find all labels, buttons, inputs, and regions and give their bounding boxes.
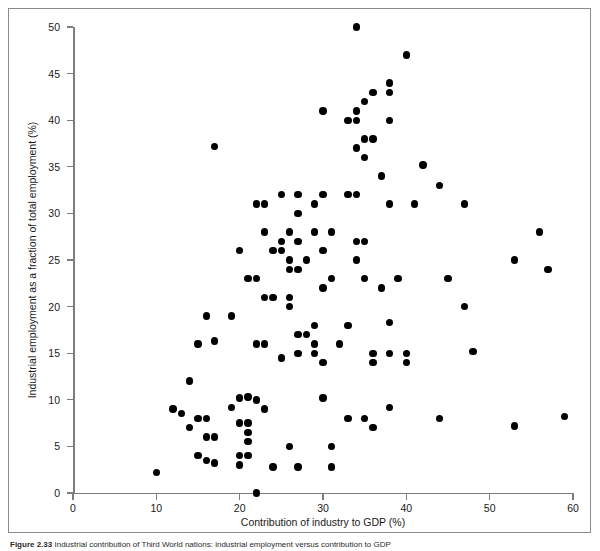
- y-axis-title: Industrial employment as a fraction of t…: [24, 27, 40, 493]
- scatter-point: [203, 312, 210, 319]
- scatter-point: [319, 359, 326, 366]
- x-axis-tick-label: 50: [475, 503, 505, 514]
- scatter-point: [294, 210, 301, 217]
- scatter-point: [236, 394, 243, 401]
- scatter-point: [369, 424, 376, 431]
- scatter-point: [186, 377, 193, 384]
- scatter-point: [311, 200, 318, 207]
- scatter-point: [228, 312, 235, 319]
- scatter-point: [269, 294, 276, 301]
- scatter-point: [244, 452, 251, 459]
- scatter-point: [203, 457, 210, 464]
- x-axis-tick: [489, 494, 490, 500]
- scatter-point: [436, 415, 443, 422]
- scatter-point: [353, 144, 360, 151]
- scatter-point: [328, 228, 335, 235]
- scatter-point: [294, 238, 301, 245]
- x-axis-tick-label: 60: [558, 503, 588, 514]
- x-axis-tick: [156, 494, 157, 500]
- scatter-point: [378, 172, 385, 179]
- scatter-point: [278, 191, 285, 198]
- scatter-point: [403, 51, 410, 58]
- scatter-point: [244, 393, 251, 400]
- scatter-point: [153, 469, 160, 476]
- scatter-point: [278, 354, 285, 361]
- scatter-point: [336, 340, 343, 347]
- scatter-point: [186, 424, 193, 431]
- scatter-point: [319, 247, 326, 254]
- scatter-point: [353, 238, 360, 245]
- scatter-point: [278, 247, 285, 254]
- scatter-point: [386, 404, 393, 411]
- scatter-point: [369, 350, 376, 357]
- scatter-point: [278, 238, 285, 245]
- x-axis-tick-label: 0: [58, 503, 88, 514]
- x-axis-tick: [572, 494, 573, 500]
- scatter-point: [194, 415, 201, 422]
- scatter-point: [203, 415, 210, 422]
- scatter-point: [319, 284, 326, 291]
- x-axis-tick-label: 40: [391, 503, 421, 514]
- scatter-point: [294, 350, 301, 357]
- scatter-point: [344, 117, 351, 124]
- x-axis-tick-label: 30: [308, 503, 338, 514]
- x-axis-tick-label: 20: [225, 503, 255, 514]
- scatter-point: [469, 348, 476, 355]
- scatter-point: [511, 422, 518, 429]
- scatter-point: [353, 191, 360, 198]
- scatter-point: [344, 415, 351, 422]
- scatter-point: [311, 228, 318, 235]
- x-axis-tick: [72, 494, 73, 500]
- scatter-point: [269, 463, 276, 470]
- scatter-point: [361, 98, 368, 105]
- scatter-point: [386, 319, 393, 326]
- scatter-point: [303, 256, 310, 263]
- scatter-point: [328, 463, 335, 470]
- figure-root: 05101520253035404550 0102030405060 Indus…: [0, 0, 600, 551]
- scatter-point: [203, 433, 210, 440]
- scatter-point: [436, 182, 443, 189]
- scatter-point: [419, 161, 426, 168]
- scatter-point: [253, 396, 260, 403]
- scatter-point: [228, 404, 235, 411]
- scatter-point: [386, 200, 393, 207]
- scatter-point: [353, 23, 360, 30]
- scatter-point: [369, 359, 376, 366]
- scatter-point: [286, 294, 293, 301]
- scatter-point: [244, 275, 251, 282]
- scatter-point: [253, 340, 260, 347]
- scatter-point: [319, 107, 326, 114]
- scatter-point: [303, 331, 310, 338]
- figure-caption: Figure 2.33 Industrial contribution of T…: [10, 540, 590, 550]
- scatter-point: [286, 443, 293, 450]
- scatter-point: [369, 135, 376, 142]
- scatter-point: [211, 433, 218, 440]
- scatter-point: [444, 275, 451, 282]
- scatter-point: [311, 340, 318, 347]
- scatter-point: [378, 284, 385, 291]
- scatter-point: [403, 350, 410, 357]
- scatter-point: [511, 256, 518, 263]
- scatter-point: [236, 247, 243, 254]
- scatter-point: [311, 350, 318, 357]
- scatter-point: [253, 275, 260, 282]
- scatter-point: [194, 340, 201, 347]
- scatter-point: [461, 303, 468, 310]
- scatter-point: [211, 143, 218, 150]
- scatter-point: [286, 303, 293, 310]
- scatter-point: [536, 228, 543, 235]
- scatter-point: [386, 350, 393, 357]
- scatter-point: [261, 228, 268, 235]
- scatter-point: [386, 89, 393, 96]
- scatter-point: [561, 413, 568, 420]
- scatter-point: [211, 459, 218, 466]
- scatter-point: [169, 405, 176, 412]
- scatter-point: [386, 117, 393, 124]
- scatter-point: [361, 275, 368, 282]
- scatter-point: [236, 419, 243, 426]
- scatter-point: [361, 154, 368, 161]
- scatter-point: [294, 191, 301, 198]
- scatter-point: [411, 200, 418, 207]
- x-axis-tick: [406, 494, 407, 500]
- scatter-point: [253, 489, 260, 496]
